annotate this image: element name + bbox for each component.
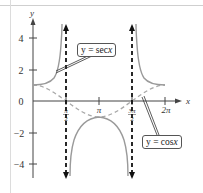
x-axis-arrow-icon xyxy=(175,99,182,104)
x-tick-label-two-pi: 2π xyxy=(161,105,171,115)
arrow-down-icon xyxy=(63,172,69,179)
x-axis-label: x xyxy=(185,96,190,106)
y-axis-label: y xyxy=(29,8,34,18)
chart-canvas: y 4 2 0 −2 −4 x π 2 π 3π 2 2 xyxy=(0,0,203,193)
y-tick-label: −4 xyxy=(14,159,25,170)
cos-callout-text: y = cos xyxy=(146,137,174,147)
y-axis: y 4 2 0 −2 −4 xyxy=(14,8,37,178)
y-axis-arrow-icon xyxy=(31,18,36,25)
x-axis: x π 2 π 3π 2 2π xyxy=(33,96,190,123)
sec-callout-var: x xyxy=(108,45,112,55)
y-tick-label: −2 xyxy=(14,128,25,139)
arrow-up-icon xyxy=(63,24,69,31)
y-tick-label: 0 xyxy=(19,96,24,107)
sec-curve-branch-middle xyxy=(70,117,128,176)
cos-callout-leader xyxy=(142,96,159,135)
cos-callout-var: x xyxy=(174,137,178,147)
y-tick-label: 2 xyxy=(19,65,24,76)
sec-callout-text: y = sec xyxy=(81,45,108,55)
sec-callout: y = secx xyxy=(77,43,116,57)
y-tick-label: 4 xyxy=(19,33,24,44)
x-tick-label-pi: π xyxy=(97,105,102,115)
arrow-up-icon xyxy=(129,24,135,31)
arrow-down-icon xyxy=(129,172,135,179)
sec-curve-branch-right xyxy=(136,24,165,85)
chart-frame: y 4 2 0 −2 −4 x π 2 π 3π 2 2 xyxy=(0,0,203,193)
sec-curve-branch-left xyxy=(33,24,62,85)
cos-callout: y = cosx xyxy=(142,135,182,149)
